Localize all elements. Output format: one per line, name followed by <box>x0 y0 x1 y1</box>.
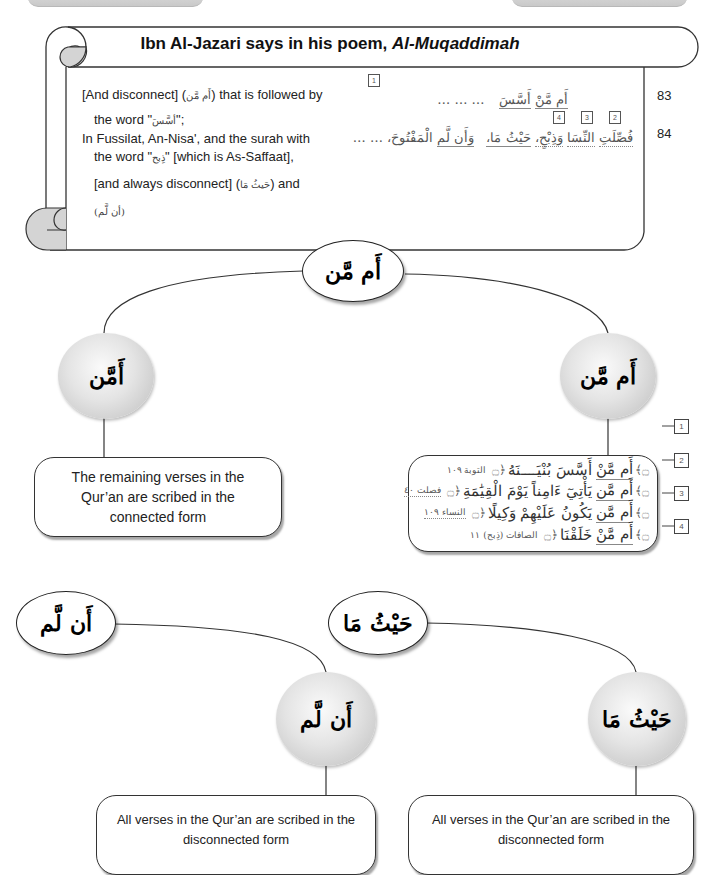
verse-text: يَأْتِيٓ ءَامِناً يَوْمَ الْقِيَٰمَةِ <box>463 482 592 500</box>
poem-line-83: أَم مَّنْ أَسَّسَ … … … <box>368 92 568 107</box>
translation-line-6: (أن لَّم) <box>82 202 342 221</box>
line-number-83: 83 <box>657 88 671 103</box>
verse-text: خَلَقْنَا <box>560 526 592 544</box>
connected-form-note: The remaining verses in the Qur’an are s… <box>34 457 282 537</box>
word-fussilat: فُصِّلَتِ <box>599 130 633 147</box>
verse-reference: النساء ١٠٩ <box>424 507 466 519</box>
ornament-icon: ﴿۝ <box>492 463 506 477</box>
root-node-haythu-ma: حَيْثُ مَا <box>328 591 428 655</box>
poem-line-84: فُصِّلَتِ النِّسَا وَذِبْحٍ، حَيْثُ مَا،… <box>378 130 633 145</box>
translation-line-5: [and always disconnect] (حَيثُ مَا) and <box>82 175 342 194</box>
verse-reference: فصلت ٤٠ <box>404 485 441 497</box>
ornament-icon: ۝﴾ <box>635 506 649 520</box>
verse-row-3: ۝﴾ أَم مَّن يَكُونُ عَلَيْهِمْ وَكِيلًا … <box>424 503 651 523</box>
page-title: Ibn Al-Jazari says in his poem, Al-Muqad… <box>95 34 565 54</box>
translation-line-1: [And disconnect] (أَم مَّن) that is foll… <box>82 86 342 105</box>
verse-reference: التوبة ١٠٩ <box>447 465 487 475</box>
marker-2: 2 <box>609 111 621 124</box>
node-haythu-ma: حَيْثُ مَا <box>588 672 686 766</box>
ornament-icon: ۝﴾ <box>635 528 649 542</box>
verse-lead: أَم مَّنْ <box>596 525 633 545</box>
ellipsis: … … … <box>437 92 484 107</box>
word-dhibh: وَذِبْحٍ، <box>535 130 563 147</box>
verse-lead: أَم مَّنْ <box>596 460 633 480</box>
translation-line-4: the word "ذِبح" [which is As-Saffaat], <box>82 148 342 167</box>
root-node-am-man: أَم مَّن <box>302 240 404 302</box>
verse-tag-3: 3 <box>674 486 689 501</box>
word-wa-an-lam: وَأَن لَّم <box>437 130 474 147</box>
haythu-ma-note: All verses in the Qur’an are scribed in … <box>408 795 694 875</box>
verse-row-2: ۝﴾ أَم مَّن يَأْتِيٓ ءَامِناً يَوْمَ الْ… <box>404 481 651 501</box>
ornament-icon: ﴿۝ <box>472 506 486 520</box>
verse-text: أَسَّسَ بُنْيَــــنَهُ <box>508 461 592 479</box>
verse-text: يَكُونُ عَلَيْهِمْ وَكِيلًا <box>488 504 593 522</box>
line-number-84: 84 <box>657 126 671 141</box>
ornament-icon: ۝﴾ <box>635 463 649 477</box>
verse-row-1: ۝﴾ أَم مَّنْ أَسَّسَ بُنْيَــــنَهُ ﴿۝ ا… <box>447 460 651 480</box>
ornament-icon: ۝﴾ <box>635 484 649 498</box>
verse-tag-1: 1 <box>674 419 689 434</box>
root-node-an-lam: أَن لَّم <box>16 591 116 655</box>
ornament-icon: ﴿۝ <box>544 528 558 542</box>
ornament-icon: ﴿۝ <box>447 484 461 498</box>
verse-row-4: ۝﴾ أَم مَّنْ خَلَقْنَا ﴿۝ الصافات (ذِبح)… <box>470 525 651 545</box>
translation-line-3: In Fussilat, An-Nisa', and the surah wit… <box>82 130 342 148</box>
verse-lead: أَم مَّن <box>596 503 633 523</box>
word-assasa: أَسَّسَ <box>499 92 531 109</box>
node-an-lam: أَن لَّم <box>276 672 376 766</box>
translation-line-2: the word "أسَّسَ"; <box>82 111 342 130</box>
marker-3: 3 <box>581 111 593 124</box>
marker-4: 4 <box>553 111 565 124</box>
disconnected-verses-box: ۝﴾ أَم مَّنْ أَسَّسَ بُنْيَــــنَهُ ﴿۝ ا… <box>408 455 658 552</box>
verse-tag-4: 4 <box>674 519 689 534</box>
poem-translation: [And disconnect] (أَم مَّن) that is foll… <box>82 86 342 221</box>
verse-lead: أَم مَّن <box>596 481 633 501</box>
node-am-man-disconnected: أَم مَّن <box>560 333 656 419</box>
word-ammin: أَم مَّنْ <box>535 92 568 109</box>
node-amman-connected: أَمَّن <box>58 333 154 419</box>
word-haythu-ma: حَيْثُ مَا، <box>486 130 530 147</box>
marker-1: 1 <box>368 74 380 87</box>
verse-tag-2: 2 <box>674 453 689 468</box>
an-lam-note: All verses in the Qur’an are scribed in … <box>96 795 376 875</box>
word-nisa: النِّسَا <box>567 130 595 147</box>
word-maftuh: الْمَفْتُوحَ، … … <box>353 130 433 145</box>
verse-reference: الصافات (ذِبح) ١١ <box>470 530 538 540</box>
